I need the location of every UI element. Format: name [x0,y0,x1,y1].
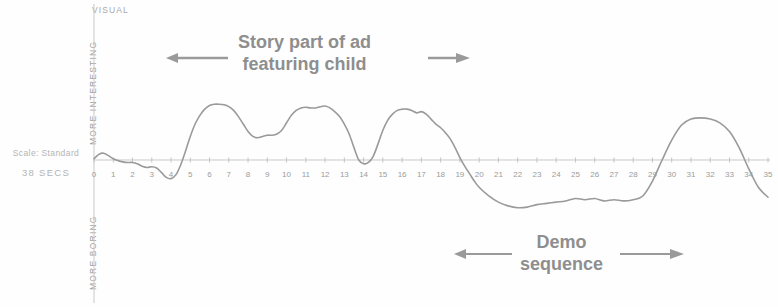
x-tick-label: 2 [130,170,134,179]
x-tick-label: 33 [725,170,734,179]
story-annotation: Story part of ad featuring child [238,32,371,76]
x-tick-label: 25 [571,170,580,179]
x-tick-label: 5 [188,170,192,179]
x-tick-label: 1 [111,170,115,179]
x-tick-label: 34 [744,170,753,179]
x-tick-label: 12 [321,170,330,179]
x-tick-label: 14 [359,170,368,179]
x-tick-label: 16 [398,170,407,179]
story-annotation-line1: Story part of ad [238,32,371,54]
x-tick-label: 17 [417,170,426,179]
x-tick-label: 4 [169,170,173,179]
x-tick-label: 30 [667,170,676,179]
x-tick-label: 6 [207,170,211,179]
story-annotation-line2: featuring child [238,54,371,76]
x-tick-label: 10 [282,170,291,179]
x-tick-label: 21 [494,170,503,179]
x-tick-label: 24 [552,170,561,179]
x-tick-label: 3 [150,170,154,179]
x-tick-label: 32 [706,170,715,179]
chart-canvas [0,0,778,307]
x-tick-label: 9 [265,170,269,179]
x-tick-label: 13 [340,170,349,179]
demo-annotation: Demo sequence [520,232,603,276]
x-tick-label: 18 [436,170,445,179]
x-tick-label: 22 [513,170,522,179]
x-tick-label: 29 [648,170,657,179]
demo-annotation-line2: sequence [520,254,603,276]
x-tick-label: 7 [227,170,231,179]
x-tick-label: 11 [302,170,310,179]
x-tick-label: 0 [92,170,96,179]
x-tick-label: 23 [532,170,541,179]
demo-annotation-line1: Demo [520,232,603,254]
x-tick-label: 15 [378,170,387,179]
response-curve-chart: VISUAL MORE INTERESTING MORE BORING Scal… [0,0,778,307]
x-tick-label: 27 [609,170,618,179]
response-trace-line [94,104,768,208]
x-tick-label: 26 [590,170,599,179]
x-tick-label: 31 [687,170,696,179]
x-tick-label: 20 [475,170,484,179]
x-tick-label: 28 [629,170,638,179]
x-tick-label: 8 [246,170,250,179]
x-tick-label: 35 [764,170,773,179]
x-tick-label: 19 [455,170,464,179]
